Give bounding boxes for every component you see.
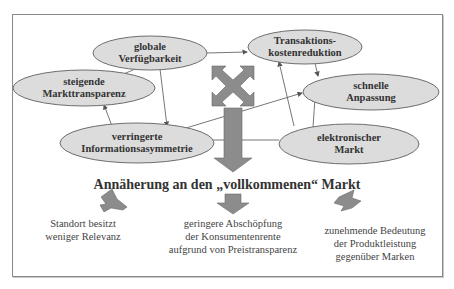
arrow-down-icon: [217, 194, 249, 214]
four-way-arrows-icon: [212, 66, 254, 106]
node-label-line: schnelle: [346, 80, 396, 92]
outcome-line: zunehmende Bedeutung: [324, 224, 425, 237]
node-label-verringerte-informationsasymmetrie: verringerte Informationsasymmetrie: [81, 131, 192, 155]
node-label-line: Anpassung: [346, 92, 396, 104]
edge-informationsasymmetrie-to-markttransparenz: [104, 105, 112, 126]
node-label-line: verringerte: [81, 131, 192, 143]
edge-globale-to-transaktion: [207, 52, 247, 53]
node-label-globale-verfuegbarkeit: globale Verfügbarkeit: [118, 41, 181, 65]
node-label-line: globale: [118, 41, 181, 53]
node-label-line: Markttransparenz: [42, 88, 125, 100]
edge-transaktion-to-anpassung: [315, 63, 318, 76]
edge-elektronisch-to-transaktion: [279, 62, 294, 126]
edge-globale-to-informationsasymmetrie: [160, 69, 167, 126]
node-label-line: elektronischer: [317, 132, 381, 144]
outcome-line: Standort besitzt: [45, 217, 121, 230]
outcome-line: der Produktleistung: [324, 237, 425, 250]
arrow-down-right-icon: [334, 190, 361, 211]
outcome-line: weniger Relevanz: [45, 230, 121, 243]
outcome-line: gegenüber Marken: [324, 250, 425, 263]
node-label-line: steigende: [42, 76, 125, 88]
outcome-line: der Konsumentenrente: [169, 230, 297, 243]
node-label-line: Verfügbarkeit: [118, 53, 181, 65]
outcome-konsumentenrente: geringere Abschöpfung der Konsumentenren…: [169, 217, 297, 256]
node-label-steigende-markttransparenz: steigende Markttransparenz: [42, 76, 125, 100]
node-label-line: Transaktions-: [268, 35, 341, 47]
node-label-line: Markt: [317, 144, 381, 156]
outcome-line: geringere Abschöpfung: [169, 217, 297, 230]
outcome-standort: Standort besitzt weniger Relevanz: [45, 217, 121, 243]
outcome-produktleistung: zunehmende Bedeutung der Produktleistung…: [324, 224, 425, 263]
outcome-line: aufgrund von Preistransparenz: [169, 243, 297, 256]
node-label-schnelle-anpassung: schnelle Anpassung: [346, 80, 396, 104]
node-label-transaktionskostenreduktion: Transaktions- kostenreduktion: [268, 35, 341, 59]
node-label-elektronischer-markt: elektronischer Markt: [317, 132, 381, 156]
node-label-line: kostenreduktion: [268, 47, 341, 59]
node-label-line: Informationsasymmetrie: [81, 143, 192, 155]
headline: Annäherung an den „vollkommenen“ Markt: [0, 177, 454, 193]
